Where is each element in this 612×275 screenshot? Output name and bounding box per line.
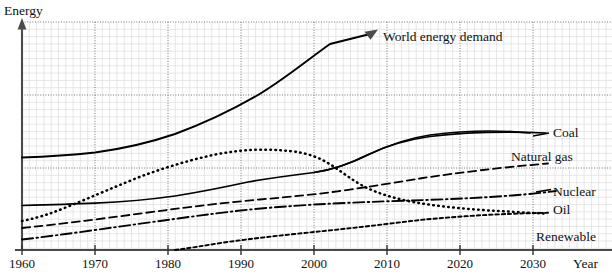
series-label-renewable: Renewable	[536, 229, 596, 244]
series-label-oil: Oil	[553, 202, 571, 217]
x-tick-label-2000: 2000	[301, 256, 327, 271]
grid-minor-horizontal	[22, 29, 612, 248]
x-tick-label-1980: 1980	[155, 256, 181, 271]
x-tick-label-2020: 2020	[447, 256, 473, 271]
x-tick-label-1970: 1970	[82, 256, 108, 271]
series-renewable	[175, 213, 548, 250]
series-label-natural-gas: Natural gas	[511, 149, 573, 164]
y-axis-title: Energy	[4, 3, 43, 18]
grid-major	[22, 22, 612, 250]
x-tick-label-2010: 2010	[374, 256, 400, 271]
chart-canvas: Energy Year 1960 1970 1980 1990 2000 201…	[0, 0, 612, 275]
series-label-nuclear: Nuclear	[553, 184, 596, 199]
energy-forecast-chart: Energy Year 1960 1970 1980 1990 2000 201…	[0, 0, 612, 275]
series-label-coal: Coal	[553, 125, 579, 140]
x-axis-title: Year	[573, 256, 598, 271]
grid-minor-vertical	[29, 22, 606, 250]
x-tick-label-1960: 1960	[9, 256, 35, 271]
annotation-world-energy-demand: World energy demand	[383, 29, 503, 44]
x-tick-label-1990: 1990	[228, 256, 254, 271]
x-tick-label-2030: 2030	[520, 256, 546, 271]
y-axis-arrow	[18, 18, 27, 30]
